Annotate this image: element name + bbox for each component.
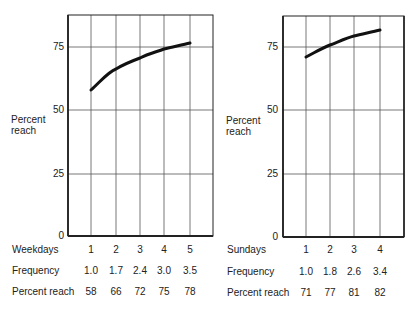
left-cell: 72 (128, 286, 152, 297)
left-row-label-weekdays: Weekdays (12, 244, 59, 255)
left-cell: 66 (104, 286, 128, 297)
left-ytick-0: 0 (44, 230, 64, 241)
right-cell: 77 (318, 287, 342, 298)
right-row-label-sundays: Sundays (227, 244, 266, 255)
left-ytick-25: 25 (44, 168, 64, 179)
left-cell: 78 (178, 286, 202, 297)
right-plot (283, 16, 404, 237)
left-ylabel-line1: Percent (11, 114, 45, 125)
left-row-label-percent-reach: Percent reach (12, 286, 74, 297)
right-cell: 2.6 (342, 266, 366, 277)
left-cell: 5 (178, 244, 202, 255)
left-row-label-frequency: Frequency (12, 265, 59, 276)
left-cell: 3 (128, 244, 152, 255)
left-ylabel-line2: reach (11, 125, 36, 136)
right-cell: 3 (342, 244, 366, 255)
right-ytick-25: 25 (258, 168, 278, 179)
left-cell: 1.0 (79, 265, 103, 276)
left-cell: 2.4 (128, 265, 152, 276)
right-ylabel-line2: reach (226, 126, 251, 137)
left-cell: 4 (152, 244, 176, 255)
right-ylabel-line1: Percent (226, 115, 260, 126)
right-cell: 71 (294, 287, 318, 298)
left-plot (68, 15, 213, 236)
left-ytick-50: 50 (44, 104, 64, 115)
left-cell: 1 (79, 244, 103, 255)
right-cell: 1.0 (294, 266, 318, 277)
right-reach-line (306, 30, 380, 57)
right-cell: 1 (294, 244, 318, 255)
left-cell: 3.5 (178, 265, 202, 276)
left-reach-line (91, 43, 190, 90)
right-ytick-0: 0 (258, 231, 278, 242)
right-cell: 1.8 (318, 266, 342, 277)
left-cell: 2 (104, 244, 128, 255)
left-cell: 3.0 (152, 265, 176, 276)
left-cell: 75 (152, 286, 176, 297)
right-row-label-percent-reach: Percent reach (227, 287, 289, 298)
right-ytick-50: 50 (258, 104, 278, 115)
right-cell: 2 (318, 244, 342, 255)
right-cell: 81 (342, 287, 366, 298)
left-cell: 1.7 (104, 265, 128, 276)
left-ytick-75: 75 (44, 41, 64, 52)
right-cell: 82 (368, 287, 392, 298)
left-cell: 58 (79, 286, 103, 297)
right-cell: 3.4 (368, 266, 392, 277)
right-ytick-75: 75 (258, 41, 278, 52)
right-row-label-frequency: Frequency (227, 266, 274, 277)
right-cell: 4 (368, 244, 392, 255)
